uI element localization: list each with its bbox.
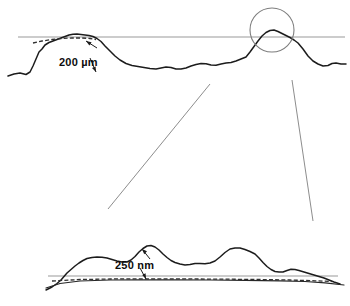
magnification-callout-lines <box>108 80 313 221</box>
bottom-profile-trace <box>46 246 340 291</box>
right-callout-line <box>292 80 313 221</box>
profile-diagram-canvas: 200 µm 250 nm <box>0 0 350 306</box>
bottom-scale-label: 250 nm <box>115 259 154 271</box>
surface-profile-figure: 200 µm 250 nm <box>0 0 350 306</box>
top-dashed-baseline <box>33 38 96 43</box>
top-scale-label: 200 µm <box>59 56 98 68</box>
left-callout-line <box>108 84 210 209</box>
bottom-profile-panel: 250 nm <box>46 246 344 291</box>
top-profile-panel: 200 µm <box>8 8 346 76</box>
bottom-substrate-line <box>46 280 344 288</box>
